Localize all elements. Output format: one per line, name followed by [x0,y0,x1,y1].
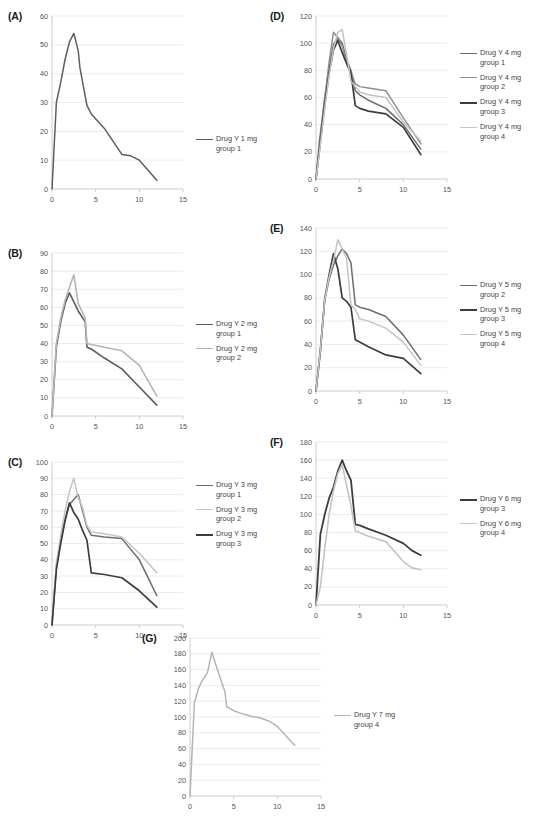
legend-item: Drug Y 5 mg group 2 [460,280,521,299]
legend-item: Drug Y 4 mg group 4 [460,122,521,141]
svg-text:70: 70 [40,285,48,294]
svg-text:30: 30 [40,98,48,107]
svg-text:20: 20 [178,776,186,785]
legend-label-line1: Drug Y 2 mg [216,344,257,353]
panel-d-label: (D) [270,10,284,22]
legend-label: Drug Y 4 mg group 2 [480,73,521,92]
svg-text:40: 40 [40,555,48,564]
legend-item: Drug Y 7 mg group 4 [334,710,395,729]
figure-panel-grid: (A) 0102030405060051015 Drug Y 1 mg grou… [0,0,546,824]
legend-item: Drug Y 5 mg group 4 [460,329,521,348]
panel-b-legend: Drug Y 2 mg group 1 Drug Y 2 mg group 2 [196,319,257,368]
legend-label-line1: Drug Y 3 mg [216,480,257,489]
legend-label-line2: group 3 [480,504,521,514]
svg-text:80: 80 [40,267,48,276]
legend-label-line2: group 3 [480,314,521,324]
legend-label-line2: group 4 [354,720,395,730]
panel-e-legend: Drug Y 5 mg group 2 Drug Y 5 mg group 3 … [460,280,521,354]
panel-e-svg: 020406080100120140051015 [290,218,455,413]
legend-label-line2: group 2 [216,514,257,524]
legend-label-line1: Drug Y 4 mg [480,122,521,131]
svg-text:100: 100 [300,270,312,279]
svg-text:160: 160 [174,665,186,674]
legend-item: Drug Y 3 mg group 1 [196,480,257,499]
svg-text:180: 180 [300,438,312,447]
panel-f-plot: 020406080100120140160180051015 [290,432,455,627]
svg-text:15: 15 [443,185,451,194]
legend-item: Drug Y 2 mg group 1 [196,319,257,338]
svg-text:40: 40 [304,564,312,573]
svg-text:0: 0 [314,611,318,620]
svg-text:40: 40 [178,760,186,769]
svg-text:100: 100 [36,458,48,467]
legend-label-line2: group 1 [216,144,257,154]
legend-label: Drug Y 4 mg group 4 [480,122,521,141]
panel-f-label: (F) [270,436,283,448]
legend-swatch-icon [460,334,477,335]
svg-text:120: 120 [300,247,312,256]
svg-text:10: 10 [135,422,143,431]
svg-text:60: 60 [40,12,48,21]
svg-text:15: 15 [179,422,187,431]
legend-swatch-icon [460,499,477,501]
legend-label: Drug Y 4 mg group 3 [480,97,521,116]
svg-text:5: 5 [232,802,236,811]
svg-text:80: 80 [304,528,312,537]
legend-label-line1: Drug Y 6 mg [480,519,521,528]
panel-d-legend: Drug Y 4 mg group 1 Drug Y 4 mg group 2 … [460,48,521,147]
svg-text:140: 140 [300,224,312,233]
legend-label: Drug Y 3 mg group 2 [216,505,257,524]
legend-item: Drug Y 6 mg group 3 [460,494,521,513]
legend-item: Drug Y 3 mg group 2 [196,505,257,524]
svg-text:30: 30 [40,357,48,366]
panel-c-legend: Drug Y 3 mg group 1 Drug Y 3 mg group 2 … [196,480,257,554]
legend-label-line2: group 2 [480,82,521,92]
svg-text:100: 100 [174,713,186,722]
svg-text:0: 0 [188,802,192,811]
svg-text:0: 0 [50,631,54,640]
panel-a-plot: 0102030405060051015 [26,6,191,211]
legend-label-line1: Drug Y 4 mg [480,73,521,82]
legend-swatch-icon [196,509,213,510]
svg-text:0: 0 [308,387,312,396]
legend-label-line2: group 4 [480,339,521,349]
legend-label-line2: group 1 [216,329,257,339]
legend-label: Drug Y 3 mg group 3 [216,529,257,548]
svg-text:0: 0 [44,185,48,194]
svg-text:0: 0 [308,175,312,184]
panel-b-plot: 0102030405060708090051015 [26,243,191,438]
svg-text:10: 10 [273,802,281,811]
legend-swatch-icon [196,485,213,486]
legend-label-line2: group 2 [216,353,257,363]
svg-text:80: 80 [304,66,312,75]
svg-text:20: 20 [40,127,48,136]
legend-label-line1: Drug Y 2 mg [216,319,257,328]
svg-text:180: 180 [174,649,186,658]
legend-label: Drug Y 2 mg group 1 [216,319,257,338]
legend-item: Drug Y 2 mg group 2 [196,344,257,363]
panel-d-svg: 020406080100120051015 [290,6,455,201]
svg-text:120: 120 [300,12,312,21]
svg-text:0: 0 [308,601,312,610]
legend-label-line2: group 4 [480,528,521,538]
svg-text:40: 40 [304,340,312,349]
svg-text:15: 15 [317,802,325,811]
legend-label-line1: Drug Y 3 mg [216,529,257,538]
legend-swatch-icon [196,139,213,140]
legend-label-line1: Drug Y 6 mg [480,494,521,503]
panel-f-legend: Drug Y 6 mg group 3 Drug Y 6 mg group 4 [460,494,521,543]
svg-text:10: 10 [399,611,407,620]
svg-text:20: 20 [304,147,312,156]
legend-label-line1: Drug Y 5 mg [480,280,521,289]
legend-swatch-icon [460,77,477,78]
panel-c-label: (C) [8,456,22,468]
svg-text:30: 30 [40,572,48,581]
panel-b-label: (B) [8,247,22,259]
svg-text:15: 15 [443,397,451,406]
svg-text:90: 90 [40,249,48,258]
svg-text:0: 0 [44,621,48,630]
legend-item: Drug Y 4 mg group 3 [460,97,521,116]
panel-e-plot: 020406080100120140051015 [290,218,455,413]
svg-text:0: 0 [182,792,186,801]
svg-text:60: 60 [40,523,48,532]
